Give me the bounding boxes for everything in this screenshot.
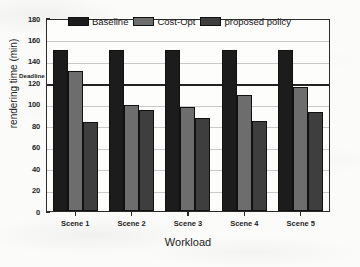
bar-group-scene-2: [109, 20, 154, 211]
y-axis-tick-label: 0: [14, 208, 40, 217]
x-axis-tick: [131, 212, 132, 216]
x-axis-tick: [187, 212, 188, 216]
bar-proposed-policy[interactable]: [308, 112, 323, 211]
x-axis-tick-label: Scene 2: [104, 219, 160, 228]
bar-cost-opt[interactable]: [293, 87, 308, 211]
legend-swatch-icon: [133, 17, 154, 26]
x-axis-tick-label: Scene 5: [273, 219, 329, 228]
bar-baseline[interactable]: [222, 50, 237, 211]
x-axis-tick: [75, 212, 76, 216]
legend-swatch-icon: [200, 17, 221, 26]
bar-baseline[interactable]: [278, 50, 293, 211]
x-axis-tick: [300, 212, 301, 216]
x-axis-tick-label: Scene 3: [160, 219, 216, 228]
legend-entry-cost-opt[interactable]: Cost-Opt: [133, 17, 195, 27]
y-axis-tick-label: 100: [14, 100, 40, 109]
y-axis-tick-label: 120: [14, 79, 40, 88]
bar-cost-opt[interactable]: [180, 107, 195, 211]
legend-entry-baseline[interactable]: Baseline: [68, 17, 128, 27]
x-axis-tick-label: Scene 1: [47, 219, 103, 228]
y-axis-tick-label: 40: [14, 165, 40, 174]
y-axis-tick-label: 20: [14, 186, 40, 195]
bar-cost-opt[interactable]: [237, 95, 252, 211]
y-axis-tick-label: 160: [14, 36, 40, 45]
y-axis-tick-label: 140: [14, 57, 40, 66]
x-axis-tick: [244, 212, 245, 216]
y-axis-tick-label: 60: [14, 143, 40, 152]
legend-label: Cost-Opt: [157, 17, 195, 27]
x-axis-tick-label: Scene 4: [216, 219, 272, 228]
y-axis-tick-label: 80: [14, 122, 40, 131]
bar-chart-figure: rendering time (min) 0204060801001201401…: [0, 0, 360, 267]
bar-baseline[interactable]: [53, 50, 68, 211]
bar-baseline[interactable]: [109, 50, 124, 211]
x-axis-title: Workload: [46, 236, 330, 248]
bar-proposed-policy[interactable]: [195, 118, 210, 211]
bar-group-scene-1: [53, 20, 98, 211]
bar-group-scene-4: [222, 20, 267, 211]
y-axis-tick-label: 180: [14, 15, 40, 24]
plot-area: [46, 19, 330, 212]
legend-label: Baseline: [92, 17, 128, 27]
deadline-annotation-label: Deadline: [19, 72, 45, 79]
bar-baseline[interactable]: [165, 50, 180, 211]
bar-proposed-policy[interactable]: [83, 122, 98, 211]
chart-legend: BaselineCost-Optproposed policy: [68, 17, 291, 27]
legend-label: proposed policy: [224, 17, 291, 27]
bar-group-scene-3: [165, 20, 210, 211]
bars-layer: [47, 20, 329, 211]
bar-group-scene-5: [278, 20, 323, 211]
bar-cost-opt[interactable]: [124, 105, 139, 211]
bar-proposed-policy[interactable]: [139, 110, 154, 211]
legend-entry-proposed-policy[interactable]: proposed policy: [200, 17, 291, 27]
legend-swatch-icon: [68, 17, 89, 26]
bar-proposed-policy[interactable]: [252, 121, 267, 211]
bar-cost-opt[interactable]: [68, 71, 83, 211]
